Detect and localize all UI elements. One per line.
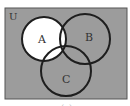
set-b-label: B [85, 31, 93, 44]
set-c-label: C [62, 73, 70, 86]
venn-diagram: U A B C (a) [0, 0, 130, 106]
set-a-label: A [37, 33, 47, 46]
figure-caption: (a) [61, 103, 72, 106]
universe-label: U [9, 11, 17, 22]
